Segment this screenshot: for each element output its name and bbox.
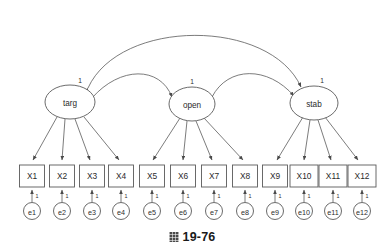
fixed-label-e4: 1	[125, 193, 128, 199]
indicator-label-X11: X11	[326, 171, 341, 181]
error-fixed-label-group: 1 1 1 1 1 1 1 1 1 1 1 1	[36, 193, 369, 199]
indicator-label-X4: X4	[116, 171, 127, 181]
error-label-e6: e6	[179, 208, 187, 217]
fixed-label-e3: 1	[96, 193, 99, 199]
error-label-e9: e9	[271, 208, 279, 217]
error-label-e8: e8	[241, 208, 249, 217]
indicator-X1[interactable]: X1	[20, 165, 45, 187]
loading-path-targ-X3	[75, 119, 90, 160]
loading-path-open-X6	[183, 121, 187, 160]
error-term-e4[interactable]: e4	[113, 203, 130, 220]
indicator-X10[interactable]: X10	[290, 165, 318, 187]
fixed-label-e10: 1	[308, 193, 311, 199]
indicator-label-X2: X2	[57, 171, 68, 181]
indicator-X8[interactable]: X8	[233, 165, 258, 187]
covariance-arc-targ-open	[92, 74, 172, 98]
latent-label-stab: stab	[306, 100, 322, 109]
error-label-e1: e1	[28, 208, 36, 217]
error-label-e2: e2	[58, 208, 66, 217]
latent-factor-stab[interactable]: stab	[290, 86, 338, 120]
loading-path-stab-X10	[304, 120, 310, 160]
fixed-label-targ: 1	[78, 77, 82, 84]
latent-label-targ: targ	[63, 99, 78, 108]
latent-factor-targ[interactable]: targ	[45, 85, 95, 119]
indicator-label-X9: X9	[270, 171, 281, 181]
covariance-arc-open-stab	[212, 74, 294, 97]
latent-label-open: open	[183, 101, 202, 110]
figure-caption: 19-76	[0, 227, 384, 245]
fixed-label-open: 1	[190, 78, 194, 85]
loading-path-targ-X4	[84, 117, 119, 160]
error-label-e4: e4	[117, 208, 125, 217]
indicator-group: X1 X2 X3 X4 X5 X6	[20, 165, 377, 187]
indicator-label-X7: X7	[209, 171, 220, 181]
error-term-e3[interactable]: e3	[84, 203, 101, 220]
indicator-label-X6: X6	[178, 171, 189, 181]
diagram-canvas: targ open stab 1 1 1 X1 X2	[0, 0, 384, 249]
error-label-e5: e5	[148, 208, 156, 217]
fixed-label-e11: 1	[337, 193, 340, 199]
error-term-e7[interactable]: e7	[206, 203, 223, 220]
indicator-X11[interactable]: X11	[319, 165, 347, 187]
fixed-label-e5: 1	[156, 193, 159, 199]
fixed-label-e9: 1	[279, 193, 282, 199]
loading-path-open-X5	[153, 118, 180, 160]
fixed-label-e2: 1	[66, 193, 69, 199]
indicator-X5[interactable]: X5	[140, 165, 165, 187]
loading-path-open-X7	[196, 121, 212, 160]
error-label-e3: e3	[88, 208, 96, 217]
error-term-e12[interactable]: e12	[354, 203, 371, 220]
figure-caption-number: 19-76	[183, 230, 216, 244]
factor-fixed-label-group: 1 1 1	[78, 77, 324, 85]
error-label-e10: e10	[298, 208, 310, 217]
indicator-label-X12: X12	[355, 171, 370, 181]
latent-factor-group: targ open stab	[45, 85, 338, 121]
loading-path-stab-X9	[277, 117, 303, 160]
error-group: e1 e2 e3 e4 e5 e6	[24, 203, 371, 220]
loading-path-group	[33, 117, 358, 160]
indicator-X3[interactable]: X3	[80, 165, 105, 187]
indicator-X9[interactable]: X9	[263, 165, 288, 187]
error-term-e5[interactable]: e5	[144, 203, 161, 220]
indicator-label-X8: X8	[240, 171, 251, 181]
error-label-e12: e12	[356, 208, 368, 217]
fixed-label-e8: 1	[249, 193, 252, 199]
error-label-e11: e11	[327, 208, 338, 217]
fixed-label-stab: 1	[320, 77, 324, 84]
indicator-label-X5: X5	[147, 171, 158, 181]
error-term-e8[interactable]: e8	[237, 203, 254, 220]
indicator-X12[interactable]: X12	[348, 165, 376, 187]
indicator-X2[interactable]: X2	[50, 165, 75, 187]
indicator-label-X1: X1	[27, 171, 38, 181]
covariance-arc-targ-stab	[88, 35, 301, 88]
error-term-e6[interactable]: e6	[175, 203, 192, 220]
error-term-e1[interactable]: e1	[24, 203, 41, 220]
indicator-X6[interactable]: X6	[171, 165, 196, 187]
error-term-e2[interactable]: e2	[54, 203, 71, 220]
latent-factor-open[interactable]: open	[169, 87, 215, 121]
error-term-e9[interactable]: e9	[267, 203, 284, 220]
loading-path-stab-X11	[318, 120, 331, 160]
figure-marker-icon	[169, 232, 179, 242]
error-term-e10[interactable]: e10	[296, 203, 313, 220]
indicator-X4[interactable]: X4	[109, 165, 134, 187]
fixed-label-e6: 1	[187, 193, 190, 199]
indicator-label-X10: X10	[297, 171, 312, 181]
loading-path-targ-X2	[62, 119, 65, 160]
fixed-label-e7: 1	[218, 193, 221, 199]
indicator-label-X3: X3	[87, 171, 98, 181]
fixed-label-e1: 1	[36, 193, 39, 199]
fixed-label-e12: 1	[366, 193, 369, 199]
error-label-e7: e7	[210, 208, 218, 217]
indicator-X7[interactable]: X7	[202, 165, 227, 187]
sem-path-diagram: targ open stab 1 1 1 X1 X2	[0, 0, 384, 249]
loading-path-targ-X1	[33, 117, 57, 160]
error-term-e11[interactable]: e11	[325, 203, 342, 220]
loading-path-open-X8	[204, 118, 243, 160]
loading-path-stab-X12	[325, 117, 358, 160]
error-path-group	[32, 190, 362, 202]
